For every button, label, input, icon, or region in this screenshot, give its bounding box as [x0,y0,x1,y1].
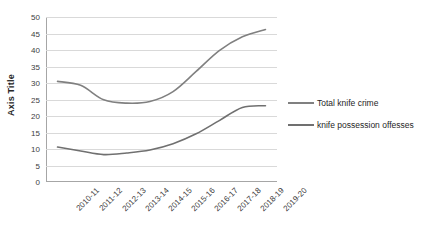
y-axis-title-label: Axis Title [6,74,16,116]
x-axis-tick-label: 2012-13 [120,186,147,213]
y-axis-tick-labels: 50454035302520151050 [20,11,42,183]
y-axis-tick-label: 0 [36,178,40,187]
x-axis-tick-labels: 2010-112011-122012-132013-142014-152015-… [46,184,277,230]
legend-item-label: knife possession offesses [317,120,414,130]
x-axis-tick-label: 2010-11 [74,186,101,213]
plot-area [46,17,277,182]
y-axis-tick-label: 45 [31,29,40,38]
y-axis-title: Axis Title [2,0,20,190]
y-axis-tick-label: 40 [31,46,40,55]
series-line [58,30,266,104]
line-chart: Axis Title 50454035302520151050 2010-112… [0,0,425,230]
legend-item[interactable]: knife possession offesses [288,114,423,136]
legend-item-label: Total knife crime [317,98,378,108]
x-axis-tick-label: 2016-17 [213,186,240,213]
legend-item[interactable]: Total knife crime [288,92,423,114]
y-axis-tick-label: 30 [31,79,40,88]
x-axis-tick-label: 2017-18 [236,186,263,213]
series-lines [46,17,277,182]
x-axis-tick-label: 2018-19 [259,186,286,213]
legend-color-swatch [288,102,314,104]
series-line [58,106,266,155]
x-axis-tick-label: 2019-20 [282,186,309,213]
y-axis-tick-label: 15 [31,128,40,137]
y-axis-tick-label: 10 [31,145,40,154]
y-axis-tick-label: 35 [31,62,40,71]
y-axis-tick-label: 20 [31,112,40,121]
x-axis-tick-label: 2013-14 [143,186,170,213]
x-axis-tick-label: 2015-16 [190,186,217,213]
y-axis-tick-label: 5 [36,161,40,170]
y-axis-tick-label: 25 [31,95,40,104]
chart-legend: Total knife crime knife possession offes… [288,92,423,136]
y-axis-tick-label: 50 [31,13,40,22]
legend-color-swatch [288,124,314,126]
x-axis-tick-label: 2014-15 [167,186,194,213]
x-axis-tick-label: 2011-12 [97,186,124,213]
